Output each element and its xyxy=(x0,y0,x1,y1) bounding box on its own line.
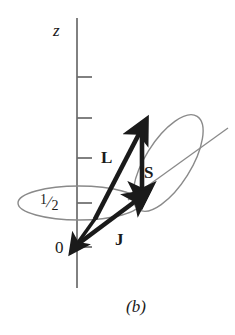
vector-L-arrow xyxy=(95,132,140,219)
fraction-one-half: 1/2 xyxy=(40,194,58,210)
fraction-denominator: 2 xyxy=(51,198,58,213)
vector-J-label: J xyxy=(115,231,124,248)
angular-momentum-vector-figure: z 1/2 0 L S J (b) xyxy=(0,0,235,335)
axis-tick-marks xyxy=(77,77,92,247)
vector-L-label: L xyxy=(101,149,112,166)
vector-S-label: S xyxy=(144,164,153,181)
origin-label: 0 xyxy=(55,239,64,256)
half-tick-label: 1/2 xyxy=(40,194,58,210)
vector-J-arrow xyxy=(74,200,137,247)
z-axis-label: z xyxy=(53,22,60,39)
figure-canvas xyxy=(0,0,235,335)
figure-caption: (b) xyxy=(126,298,146,315)
